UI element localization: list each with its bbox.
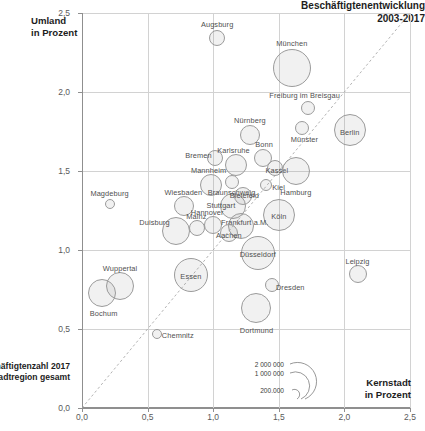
y-axis-tick-mark [78,250,82,251]
bubble-hamburg[interactable] [282,157,310,185]
y-axis-tick: 2,0 [0,87,78,97]
gridline-vertical [344,13,345,408]
bubble-label: Aachen [216,231,242,240]
x-axis-tick-mark [148,408,149,412]
x-axis-tick-label: 2,5 [404,412,416,422]
x-axis-tick-label: 0,5 [142,412,154,422]
gridline-horizontal [82,92,410,93]
bubble-chart: 0,00,51,01,52,02,5 0,00,51,01,52,02,5 Au… [0,0,425,431]
size-legend-value-1: 1 000 000 [240,370,284,377]
bubble-label: Augsburg [201,20,233,29]
x-axis-tick-label: 1,5 [273,412,285,422]
bubble-bochum[interactable] [88,279,116,307]
bubble-label: Köln [271,212,286,221]
bubble-label: Magdeburg [90,189,128,198]
y-axis-tick-mark [78,329,82,330]
x-axis-tick-label: 0,0 [76,412,88,422]
bubble-label: Bochum [90,309,118,318]
bubble-label: Bonn [255,140,273,149]
x-axis-title-line1: Kernstadt [365,377,411,389]
y-axis-title-line1: Umland [31,15,77,27]
y-axis-tick: 0,0 [0,403,78,413]
y-axis-tick: 1,5 [0,166,78,176]
x-axis-tick-mark [279,408,280,412]
y-axis-title-line2: in Prozent [31,27,77,39]
y-axis-tick-label: 2,0 [0,87,70,97]
bubble-label: Wiesbaden [164,188,202,197]
size-legend-title-line2: je Stadtregion gesamt [0,372,70,383]
x-axis-title: Kernstadt in Prozent [365,377,411,400]
gridline-vertical [410,13,411,408]
x-axis-tick-label: 2,0 [338,412,350,422]
bubble-karlsruhe[interactable] [225,154,247,176]
bubble-chemnitz[interactable] [152,329,162,339]
bubble-label: Essen [180,272,201,281]
bubble-label: Nürnberg [234,116,266,125]
x-axis-title-line2: in Prozent [365,389,411,401]
bubble-m-nchen[interactable] [273,49,311,87]
gridline-horizontal [82,13,410,14]
bubble-label: Leipzig [345,257,369,266]
x-axis-line [82,408,410,409]
plot-area [82,13,410,408]
bubble-label: Berlin [340,128,360,137]
size-legend-title: Beschäftigtenzahl 2017 je Stadtregion ge… [0,361,70,383]
bubble-label: Wuppertal [103,264,137,273]
bubble-label: Mannheim [191,166,226,175]
bubble-label: Dortmund [240,326,273,335]
gridline-vertical [148,13,149,408]
bubble-leipzig[interactable] [349,265,367,283]
bubble-label: Kiel [272,183,285,192]
bubble-label: Dresden [276,283,305,292]
y-axis-tick-label: 1,0 [0,245,70,255]
bubble-magdeburg[interactable] [105,199,115,209]
y-axis-tick-mark [78,92,82,93]
size-legend-title-line1: Beschäftigtenzahl 2017 [0,361,70,372]
size-legend-value-2: 200.000 [240,387,284,394]
x-axis-tick-mark [213,408,214,412]
bubble-kiel[interactable] [260,179,272,191]
y-axis-tick-mark [78,171,82,172]
x-axis-tick-mark [410,408,411,412]
y-axis-tick-label: 0,5 [0,324,70,334]
y-axis-tick: 1,0 [0,245,78,255]
x-axis-tick-label: 1,0 [207,412,219,422]
y-axis-tick-label: 1,5 [0,166,70,176]
y-axis-tick: 0,5 [0,324,78,334]
y-axis-line [82,13,83,409]
y-axis-tick-label: 0,0 [0,403,70,413]
bubble-label: Bremen [185,151,211,160]
x-axis-tick-mark [82,408,83,412]
x-axis-tick-mark [344,408,345,412]
bubble-label: Bielefeld [230,191,259,200]
bubble-label: Karlsruhe [217,146,250,155]
bubble-braunschweig[interactable] [225,175,239,189]
bubble-label: Mainz [186,212,206,221]
bubble-label: München [276,39,307,48]
size-legend-circles [288,359,328,403]
bubble-label: Chemnitz [162,331,194,340]
size-legend-value-0: 2 000 000 [240,361,284,368]
y-axis-tick-mark [78,13,82,14]
bubble-freiburg-im-breisgau[interactable] [301,101,315,115]
gridline-horizontal [82,171,410,172]
y-axis-title: Umland in Prozent [31,15,77,38]
bubble-label: Freiburg im Breisgau [269,91,340,100]
bubble-label: Duisburg [139,218,169,227]
bubble-label: Düsseldorf [240,250,276,259]
bubble-label: Münster [291,135,318,144]
